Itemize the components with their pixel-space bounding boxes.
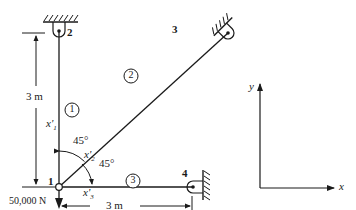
element-label-2: 2 bbox=[127, 69, 135, 80]
local-axis-label-2: x'2 bbox=[84, 148, 95, 163]
vertical-dimension-label: 3 m bbox=[26, 90, 43, 102]
load-label: 50,000 N bbox=[9, 195, 46, 206]
x-axis-label: x bbox=[339, 180, 344, 192]
angle-label-1: 45° bbox=[73, 134, 88, 146]
element-label-1: 1 bbox=[68, 103, 76, 114]
node-label-2: 2 bbox=[67, 26, 73, 38]
local-axis-label-3: x'3 bbox=[83, 186, 94, 201]
horizontal-dimension-label: 3 m bbox=[104, 199, 125, 210]
node-label-3: 3 bbox=[172, 23, 178, 35]
local-axis-label-1: x'1 bbox=[46, 117, 57, 132]
y-axis-label: y bbox=[249, 80, 254, 92]
labels-layer: 2 3 1 4 1 2 3 3 m 3 m 45° 45° x'1 x'2 x'… bbox=[0, 0, 356, 210]
node-label-1: 1 bbox=[48, 175, 54, 187]
node-label-4: 4 bbox=[182, 167, 188, 179]
element-label-3: 3 bbox=[129, 174, 137, 185]
angle-label-2: 45° bbox=[99, 157, 114, 169]
